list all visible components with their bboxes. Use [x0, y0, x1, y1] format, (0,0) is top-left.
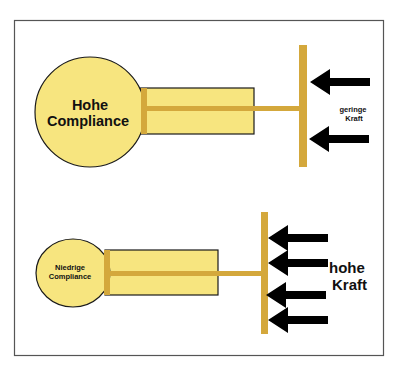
bottom-force-label-line1: hohe — [329, 259, 365, 276]
top-force-plate — [299, 45, 307, 167]
bottom-bulb-label-line1: Niedrige — [55, 263, 85, 272]
bottom-piston-plate — [104, 250, 110, 295]
top-piston-rod — [147, 106, 303, 111]
top-bulb-label-line1: Hohe — [72, 97, 108, 113]
bottom-force-plate — [261, 212, 268, 334]
top-piston-plate — [141, 88, 147, 134]
top-force-label-line1: geringe — [339, 105, 366, 114]
bottom-force-label-line2: Kraft — [332, 276, 367, 293]
bottom-piston-rod — [110, 271, 264, 276]
compliance-diagram: Hohe Compliance geringe Kraft Niedrige C… — [0, 0, 405, 373]
bottom-bulb-label-line2: Compliance — [49, 272, 92, 281]
top-force-label-line2: Kraft — [345, 114, 363, 123]
top-bulb-label-line2: Compliance — [47, 113, 129, 129]
